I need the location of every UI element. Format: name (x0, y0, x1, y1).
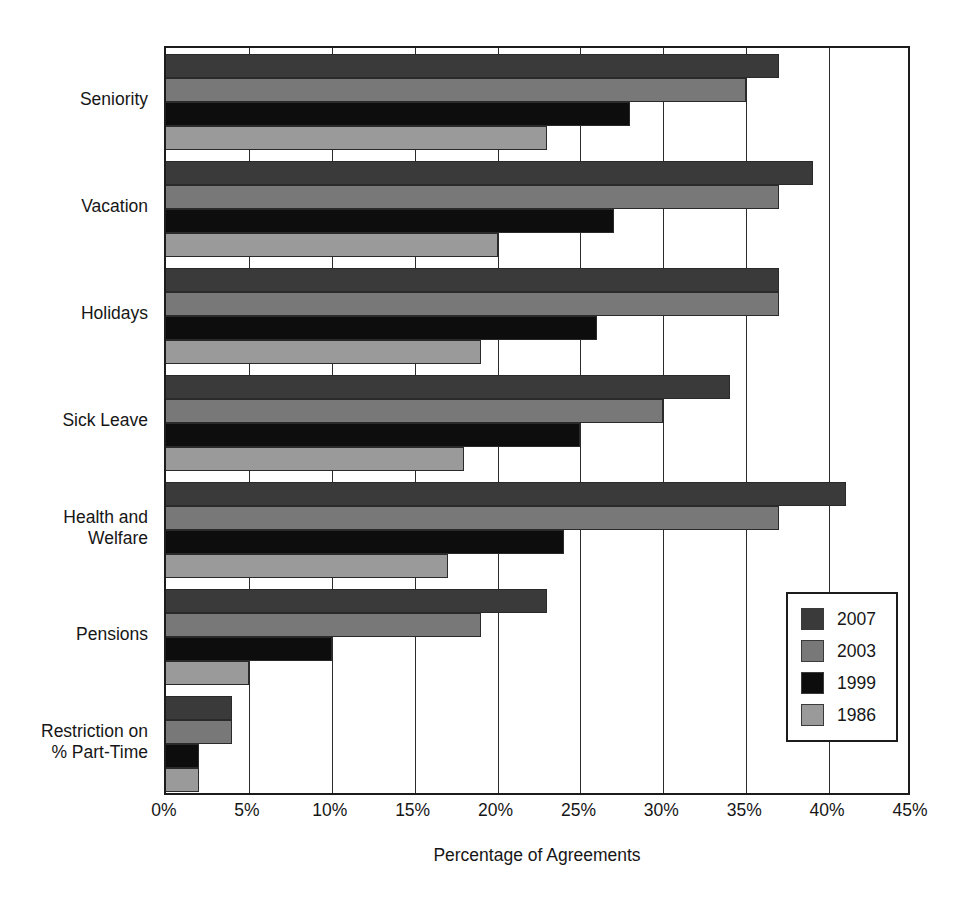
bar (166, 613, 481, 637)
bar (166, 696, 232, 720)
bar-chart: SeniorityVacationHolidaysSick LeaveHealt… (0, 0, 971, 914)
category-band (166, 476, 908, 583)
bar-fill-2007 (166, 482, 846, 506)
bar (166, 268, 779, 292)
bar (166, 209, 614, 233)
bar (166, 506, 779, 530)
y-axis-labels: SeniorityVacationHolidaysSick LeaveHealt… (0, 46, 156, 795)
bar-fill-1999 (166, 423, 580, 447)
bar-fill-2003 (166, 506, 779, 530)
bar-fill-1999 (166, 637, 332, 661)
bar (166, 185, 779, 209)
x-axis-title: Percentage of Agreements (164, 845, 910, 866)
bar-fill-1986 (166, 661, 249, 685)
bar-fill-1999 (166, 209, 614, 233)
bar (166, 233, 498, 257)
x-axis-tick-label: 25% (561, 800, 596, 821)
category-band (166, 48, 908, 155)
bar (166, 78, 746, 102)
x-axis-tick-label: 15% (395, 800, 430, 821)
bar-fill-2003 (166, 399, 663, 423)
x-axis-tick-label: 35% (727, 800, 762, 821)
y-axis-label: Restriction on % Part-Time (41, 721, 148, 763)
category-band (166, 155, 908, 262)
bar-fill-1986 (166, 233, 498, 257)
x-axis-tick-label: 10% (312, 800, 347, 821)
bar (166, 768, 199, 792)
bar-fill-1986 (166, 554, 448, 578)
bar (166, 161, 813, 185)
bar (166, 447, 464, 471)
bar (166, 375, 730, 399)
x-axis-tick-labels: 0%5%10%15%20%25%30%35%40%45% (0, 800, 971, 830)
bar-fill-2007 (166, 589, 547, 613)
bar-fill-1986 (166, 447, 464, 471)
bar-fill-1999 (166, 744, 199, 768)
category-band (166, 262, 908, 369)
bar (166, 589, 547, 613)
y-axis-label: Vacation (81, 196, 148, 217)
bar-fill-1986 (166, 340, 481, 364)
bar (166, 661, 249, 685)
y-axis-label: Seniority (80, 89, 148, 110)
bar (166, 54, 779, 78)
bar (166, 126, 547, 150)
legend-item-2003: 2003 (788, 635, 896, 667)
y-axis-label: Pensions (76, 624, 148, 645)
legend-swatch-icon (801, 640, 824, 662)
bar (166, 530, 564, 554)
bar-fill-2007 (166, 375, 730, 399)
bar (166, 340, 481, 364)
bar-fill-1999 (166, 530, 564, 554)
bar-fill-1986 (166, 126, 547, 150)
bar-fill-1999 (166, 316, 597, 340)
legend-label: 2007 (837, 609, 876, 630)
bar-fill-2003 (166, 78, 746, 102)
legend-swatch-icon (801, 704, 824, 726)
bar-fill-2007 (166, 268, 779, 292)
bar-fill-2007 (166, 696, 232, 720)
x-axis-tick-label: 5% (234, 800, 259, 821)
legend: 2007200319991986 (786, 592, 898, 742)
bar (166, 423, 580, 447)
x-axis-tick-label: 0% (151, 800, 176, 821)
x-axis-tick-label: 40% (810, 800, 845, 821)
y-axis-label: Health and Welfare (63, 507, 148, 549)
bar-fill-2007 (166, 54, 779, 78)
bar (166, 482, 846, 506)
bar (166, 102, 630, 126)
legend-item-1999: 1999 (788, 667, 896, 699)
bar-fill-1986 (166, 768, 199, 792)
legend-label: 1986 (837, 705, 876, 726)
x-axis-tick-label: 20% (478, 800, 513, 821)
x-axis-tick-label: 45% (892, 800, 927, 821)
bar (166, 637, 332, 661)
legend-swatch-icon (801, 672, 824, 694)
bar-fill-2003 (166, 292, 779, 316)
bar (166, 720, 232, 744)
bar-fill-2003 (166, 613, 481, 637)
bar-fill-2003 (166, 185, 779, 209)
y-axis-label: Sick Leave (62, 410, 148, 431)
bar (166, 399, 663, 423)
bar (166, 744, 199, 768)
y-axis-label: Holidays (81, 303, 148, 324)
bar-fill-2007 (166, 161, 813, 185)
x-axis-tick-label: 30% (644, 800, 679, 821)
category-band (166, 369, 908, 476)
legend-label: 2003 (837, 641, 876, 662)
bar (166, 316, 597, 340)
bar-fill-1999 (166, 102, 630, 126)
bar-fill-2003 (166, 720, 232, 744)
legend-swatch-icon (801, 608, 824, 630)
legend-item-2007: 2007 (788, 603, 896, 635)
legend-label: 1999 (837, 673, 876, 694)
legend-item-1986: 1986 (788, 699, 896, 731)
bar (166, 292, 779, 316)
bar (166, 554, 448, 578)
